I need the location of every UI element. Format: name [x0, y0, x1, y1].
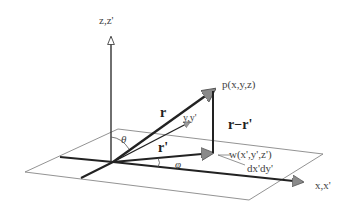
point-w-label: w(x',y',z'): [229, 148, 272, 161]
x-axis: [113, 162, 303, 182]
coordinate-diagram: z,z' x,x' y,y' p(x,y,z) w(x',y',z') dx'd…: [0, 0, 353, 214]
negative-x-axis: [60, 157, 113, 162]
y-axis-label: y,y': [183, 112, 197, 123]
theta-label: θ: [121, 133, 127, 145]
x-axis-label: x,x': [315, 179, 331, 191]
vector-r-minus-r-prime-label: r−r': [228, 117, 252, 132]
negative-y-axis: [81, 162, 113, 178]
point-p-label: p(x,y,z): [222, 78, 256, 91]
phi-arc: [158, 158, 160, 167]
z-axis-label: z,z': [99, 14, 114, 26]
phi-label: φ: [175, 158, 181, 170]
vector-r-prime-label: r': [158, 140, 168, 155]
area-element-label: dx'dy': [247, 162, 273, 174]
xy-plane: [25, 129, 323, 200]
vector-r-label: r: [160, 105, 166, 120]
